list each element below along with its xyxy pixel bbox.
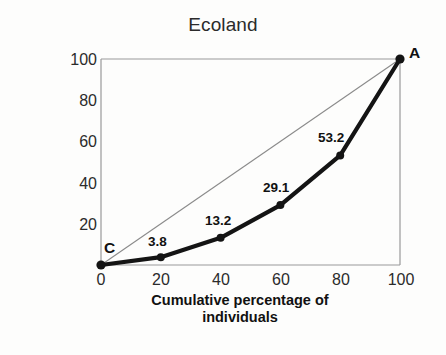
point-label-3-8: 3.8 — [148, 235, 167, 249]
chart-figure: Ecoland Cumulative percentage of income … — [0, 0, 446, 355]
equality-line — [101, 59, 400, 265]
data-point-marker — [276, 201, 284, 209]
data-point-marker — [336, 151, 344, 159]
data-point-marker — [217, 234, 225, 242]
point-label-53-2: 53.2 — [318, 131, 344, 145]
annotation-label-c: C — [104, 240, 115, 256]
data-point-marker — [157, 253, 165, 261]
plot-area — [0, 0, 446, 355]
annotation-label-a: A — [409, 45, 420, 61]
data-point-marker — [395, 54, 404, 63]
data-point-marker — [96, 260, 105, 269]
point-label-29-1: 29.1 — [263, 181, 289, 195]
point-label-13-2: 13.2 — [205, 214, 231, 228]
